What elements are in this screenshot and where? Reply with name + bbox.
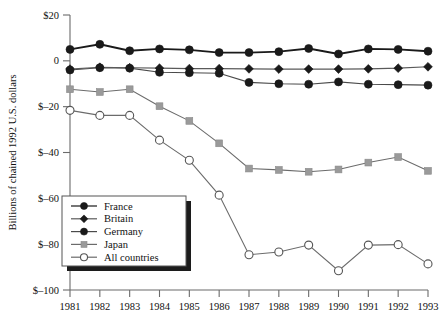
legend-item-label: Germany — [104, 226, 144, 237]
data-point — [216, 140, 223, 147]
data-point — [96, 89, 103, 96]
legend-swatch-marker — [80, 254, 87, 261]
x-axis-tick-label: 1992 — [388, 301, 409, 312]
data-point — [126, 86, 133, 93]
x-axis-tick-label: 1989 — [298, 301, 319, 312]
series-line — [70, 89, 428, 172]
series-france — [66, 40, 432, 58]
data-point — [185, 156, 193, 164]
x-axis-tick-label: 1987 — [239, 301, 260, 312]
data-point — [156, 136, 164, 144]
data-point — [126, 47, 134, 55]
legend: FranceBritainGermanyJapanAll countries — [62, 196, 191, 271]
data-point — [364, 80, 372, 88]
data-point — [275, 248, 283, 256]
x-axis-tick-label: 1990 — [328, 301, 349, 312]
data-point — [215, 191, 223, 199]
x-axis-tick-label: 1985 — [179, 301, 200, 312]
x-axis-tick-label: 1993 — [418, 301, 439, 312]
data-point — [275, 80, 283, 88]
data-point — [305, 44, 313, 52]
data-point — [305, 241, 313, 249]
data-point — [424, 260, 432, 268]
data-point — [245, 251, 253, 259]
data-point — [67, 86, 74, 93]
data-point — [365, 159, 372, 166]
data-point — [364, 64, 373, 73]
x-axis-tick-label: 1991 — [358, 301, 379, 312]
x-axis-tick-label: 1984 — [149, 301, 171, 312]
x-axis-tick-label: 1983 — [119, 301, 140, 312]
y-axis-tick-label: $20 — [43, 10, 59, 21]
x-axis-tick-label: 1981 — [60, 301, 81, 312]
data-point — [394, 64, 403, 73]
data-point — [364, 241, 372, 249]
data-point — [156, 45, 164, 53]
data-point — [96, 40, 104, 48]
data-point — [275, 167, 282, 174]
legend-item-label: Britain — [104, 213, 134, 224]
y-axis-tick-label: $–40 — [38, 147, 59, 158]
data-point — [394, 241, 402, 249]
data-point — [364, 45, 372, 53]
data-point — [156, 103, 163, 110]
data-point — [335, 78, 343, 86]
line-chart-canvas: $200$–20$–40$–60$–80$–100198119821983198… — [0, 0, 440, 322]
data-point — [304, 65, 313, 74]
data-point — [245, 64, 254, 73]
data-point — [394, 81, 402, 89]
y-axis-tick-label: 0 — [54, 55, 59, 66]
data-point — [335, 267, 343, 275]
data-point — [335, 166, 342, 173]
data-point — [66, 106, 74, 114]
y-axis-tick-label: $–80 — [38, 239, 59, 250]
data-point — [274, 65, 283, 74]
legend-swatch-marker — [80, 202, 87, 209]
data-point — [425, 167, 432, 174]
x-axis-tick-label: 1988 — [268, 301, 289, 312]
y-axis-tick-label: $–100 — [33, 285, 59, 296]
data-point — [96, 111, 104, 119]
data-point — [215, 49, 223, 57]
y-axis-tick-label: $–20 — [38, 101, 59, 112]
data-point — [335, 50, 343, 58]
data-point — [245, 78, 253, 86]
data-point — [395, 154, 402, 161]
data-point — [186, 117, 193, 124]
y-axis-title: Billions of chained 1992 U.S. dollars — [7, 74, 18, 230]
legend-item-label: All countries — [104, 252, 159, 263]
legend-item-label: France — [104, 201, 133, 212]
x-axis-tick-label: 1982 — [89, 301, 110, 312]
data-point — [334, 65, 343, 74]
data-point — [275, 48, 283, 56]
data-point — [185, 46, 193, 54]
data-point — [394, 45, 402, 53]
data-point — [424, 47, 432, 55]
data-point — [245, 49, 253, 57]
legend-swatch-marker — [81, 241, 87, 247]
data-point — [246, 165, 253, 172]
y-axis-tick-label: $–60 — [38, 193, 59, 204]
data-point — [424, 81, 432, 89]
data-point — [424, 62, 433, 71]
data-point — [305, 168, 312, 175]
data-point — [66, 45, 74, 53]
legend-swatch-marker — [80, 228, 87, 235]
data-point — [305, 80, 313, 88]
chart-figure: $200$–20$–40$–60$–80$–100198119821983198… — [0, 0, 440, 322]
x-axis-tick-label: 1986 — [209, 301, 230, 312]
legend-item-label: Japan — [104, 239, 129, 250]
series-britain — [66, 62, 433, 73]
data-point — [126, 111, 134, 119]
series-japan — [67, 86, 432, 175]
